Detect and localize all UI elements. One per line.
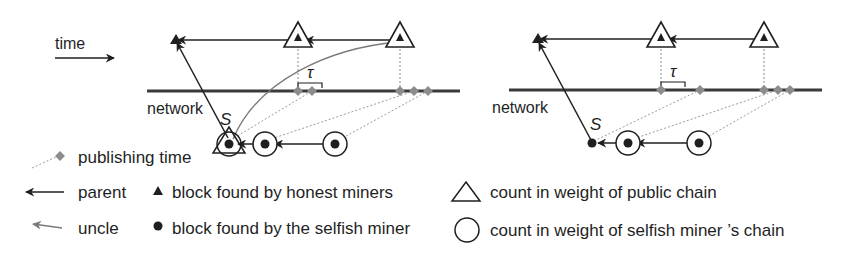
stale-selfish-block-s: S [213, 110, 245, 156]
time-axis-indicator: time [55, 35, 114, 58]
publishing-time-marker [695, 85, 705, 95]
tau-bracket [661, 82, 685, 87]
honest-block-counted-public [647, 22, 675, 47]
selfish-block-icon [695, 139, 704, 148]
selfish-block-icon [331, 140, 340, 149]
network-label: network [147, 100, 204, 117]
legend-label: count in weight of selfish miner ’s chai… [490, 221, 785, 240]
panel-right: network τ S [492, 22, 822, 155]
honest-block-icon [153, 186, 163, 195]
publishing-time-marker [395, 86, 405, 96]
selfish-block-counted [323, 132, 347, 156]
publishing-line-icon [32, 156, 58, 168]
publishing-line [339, 91, 428, 140]
selfish-block-icon [588, 139, 597, 148]
publishing-line [268, 91, 414, 140]
honest-block-counted-public [750, 22, 778, 47]
publishing-time-marker [656, 85, 666, 95]
legend-label: parent [78, 183, 126, 202]
legend: publishing time parent uncle block found… [26, 148, 785, 242]
selfish-block-counted [253, 132, 277, 156]
selfish-block-icon [154, 222, 163, 231]
legend-item-publishing-time: publishing time [32, 148, 191, 168]
selfish-block-counted [616, 131, 640, 155]
time-label: time [55, 35, 85, 52]
tau-bracket [298, 83, 322, 88]
stale-block-label: S [220, 110, 232, 129]
publishing-time-marker [423, 86, 433, 96]
selfish-mining-figure: time network τ [0, 0, 854, 259]
legend-label: publishing time [78, 148, 191, 167]
legend-label: block found by honest miners [172, 183, 393, 202]
legend-label: uncle [78, 219, 119, 238]
publishing-line [702, 90, 790, 140]
selfish-weight-circle-icon [455, 218, 479, 242]
legend-item-selfish-block: block found by the selfish miner [154, 219, 411, 238]
honest-block-counted-public [284, 22, 312, 47]
publishing-diamond-icon [55, 151, 65, 161]
legend-item-parent: parent [26, 183, 126, 202]
tau-label: τ [670, 62, 678, 81]
publishing-line [594, 90, 700, 141]
publishing-time-marker [307, 86, 317, 96]
legend-item-uncle: uncle [33, 219, 119, 238]
legend-item-selfish-weight: count in weight of selfish miner ’s chai… [455, 218, 785, 242]
panel-left: network τ [147, 22, 460, 156]
honest-block-counted-public [386, 22, 414, 47]
legend-item-honest-block: block found by honest miners [153, 183, 393, 202]
publishing-line [234, 91, 312, 138]
network-label: network [492, 99, 549, 116]
honest-block [532, 33, 544, 43]
uncle-arrow-icon [33, 224, 62, 228]
publishing-time-marker [409, 86, 419, 96]
selfish-block-icon [261, 140, 270, 149]
publishing-time-marker [785, 85, 795, 95]
legend-label: block found by the selfish miner [172, 219, 410, 238]
publishing-time-marker [773, 85, 783, 95]
legend-label: count in weight of public chain [490, 183, 717, 202]
honest-block [170, 34, 182, 44]
stale-block-label: S [590, 115, 602, 134]
publishing-time-marker [293, 86, 303, 96]
selfish-block-counted [687, 131, 711, 155]
public-weight-triangle-icon [452, 182, 480, 201]
selfish-block-icon [225, 140, 234, 149]
legend-item-public-weight: count in weight of public chain [452, 182, 717, 202]
selfish-block-icon [624, 139, 633, 148]
